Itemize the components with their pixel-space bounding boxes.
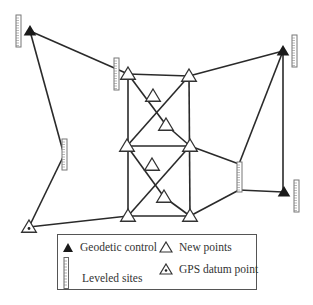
network-edge <box>128 146 190 216</box>
legend-leveled-sites-label: Leveled sites <box>82 272 142 284</box>
legend: Geodetic control New points Leveled site… <box>57 234 257 290</box>
network-edge <box>189 51 283 76</box>
network-edge <box>190 146 239 164</box>
network-edge <box>30 31 64 155</box>
new-point-triangle-icon <box>159 118 174 130</box>
network-edge <box>127 146 164 197</box>
legend-gps-datum-label: GPS datum point <box>179 263 258 275</box>
leveling-staff-icon <box>16 15 21 47</box>
network-edges <box>29 31 283 227</box>
leveling-staff-icon <box>63 257 70 289</box>
leveling-staff-icon <box>294 180 299 212</box>
network-edge <box>29 155 64 227</box>
leveling-staff-icon <box>292 35 297 67</box>
legend-geodetic-control-label: Geodetic control <box>80 241 157 253</box>
legend-geodetic-control: Geodetic control <box>62 241 157 253</box>
leveling-staff-icon <box>237 162 242 192</box>
hollow-triangle-icon <box>159 241 173 253</box>
geodetic-control-triangle-icon <box>277 45 290 56</box>
network-nodes <box>22 25 291 232</box>
leveling-staff-icon <box>62 139 67 170</box>
new-point-triangle-icon <box>146 89 161 101</box>
filled-triangle-icon <box>62 242 74 253</box>
new-point-triangle-icon <box>157 190 172 202</box>
network-edge <box>239 51 283 164</box>
legend-gps-datum: GPS datum point <box>159 263 258 275</box>
network-edge <box>127 76 189 146</box>
network-edge <box>128 74 189 76</box>
legend-leveled-sites: Leveled sites <box>63 257 142 289</box>
network-edge <box>29 216 128 227</box>
network-edge <box>239 190 283 192</box>
network-edge <box>190 190 239 216</box>
legend-new-points: New points <box>159 241 232 253</box>
new-point-triangle-icon <box>121 67 136 79</box>
new-point-triangle-icon <box>183 209 198 221</box>
new-point-triangle-icon <box>145 158 160 170</box>
leveling-staff-icon <box>114 58 119 90</box>
legend-new-points-label: New points <box>179 241 232 253</box>
network-edge <box>30 31 128 74</box>
gps-datum-triangle-icon <box>159 263 173 275</box>
geodetic-control-triangle-icon <box>24 25 37 36</box>
